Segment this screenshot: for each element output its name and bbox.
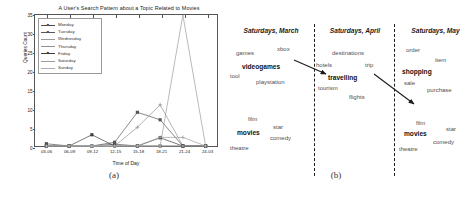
legend-label: Tuesday (58, 29, 75, 34)
legend-item-friday[interactable]: ■Friday (41, 50, 98, 57)
legend-item-monday[interactable]: ■Monday (41, 21, 98, 28)
panel-a-line-chart: A User's Search Pattern about a Topic Re… (0, 0, 228, 198)
legend-label: Friday (58, 51, 70, 56)
legend-marker-sunday-icon: · (41, 64, 55, 71)
figure-container: A User's Search Pattern about a Topic Re… (0, 0, 475, 198)
legend-label: Monday (58, 22, 74, 27)
y-axis-label: Queries Count (23, 32, 28, 63)
arrow-march-to-april (294, 60, 326, 74)
legend-marker-friday-icon: ■ (41, 50, 55, 57)
arrow-april-to-may (374, 74, 414, 104)
x-tick-label: 03-06 (41, 149, 52, 154)
x-tick-label: 15-18 (133, 149, 144, 154)
legend-label: Wednesday (58, 36, 81, 41)
x-axis-label: Time of Day (34, 160, 218, 166)
legend-label: Sunday (58, 65, 73, 70)
legend-marker-thursday-icon: + (41, 43, 55, 50)
legend-marker-tuesday-icon: ■ (41, 28, 55, 35)
legend-label: Thursday (58, 44, 76, 49)
subfigure-a-label: (a) (84, 170, 144, 180)
legend-label: Saturday (58, 58, 76, 63)
series-tuesday (45, 111, 207, 148)
x-tick-label: 24-03 (202, 149, 213, 154)
x-tick-label: 09-12 (87, 149, 98, 154)
y-tick-mark (33, 148, 36, 149)
transition-arrows-layer (228, 0, 475, 198)
legend-item-tuesday[interactable]: ■Tuesday (41, 28, 98, 35)
panel-b-word-clouds: Saturdays, March gamesxboxvideogamestool… (228, 0, 475, 198)
x-tick-label: 06-09 (64, 149, 75, 154)
legend-item-thursday[interactable]: +Thursday (41, 43, 98, 50)
x-tick-label: 18-21 (156, 149, 167, 154)
legend-marker-monday-icon: ■ (41, 21, 55, 28)
subfigure-b-label: (b) (306, 170, 366, 180)
legend-item-wednesday[interactable]: Wednesday (41, 35, 98, 42)
plot-area: Queries Count 05101520253035 03-0606-090… (34, 14, 218, 147)
chart-title: A User's Search Pattern about a Topic Re… (36, 5, 222, 11)
legend-item-saturday[interactable]: +Saturday (41, 57, 98, 64)
legend-marker-wednesday-icon (41, 35, 55, 42)
x-tick-label: 12-15 (110, 149, 121, 154)
chart-legend: ■Monday■TuesdayWednesday+Thursday■Friday… (38, 18, 102, 74)
series-thursday (44, 103, 207, 148)
x-tick-label: 21-24 (179, 149, 190, 154)
legend-marker-saturday-icon: + (41, 57, 55, 64)
legend-item-sunday[interactable]: ·Sunday (41, 64, 98, 71)
